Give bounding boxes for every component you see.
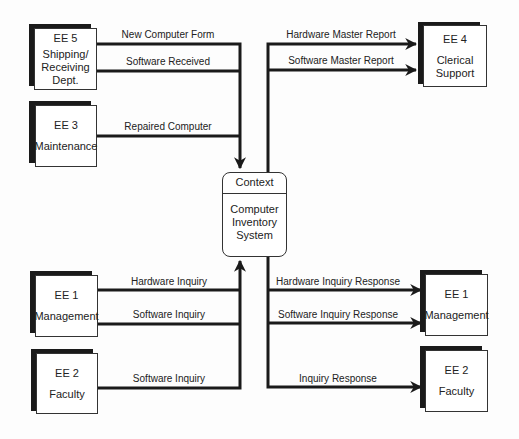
entity-name-line: Dept.: [52, 74, 78, 87]
flow-label-faculty-software-inquiry: Software Inquiry: [133, 373, 205, 384]
entity-id: EE 3: [54, 119, 78, 132]
flow-label-new-computer-form: New Computer Form: [122, 29, 215, 40]
flow-label-software-master-report: Software Master Report: [288, 55, 394, 66]
entity-name-line: Management: [34, 310, 98, 323]
process-name: Computer Inventory System: [223, 194, 286, 242]
entity-id: EE 4: [443, 33, 467, 46]
entity-name-line: Shipping/: [43, 48, 89, 61]
flow-label-hardware-master-report: Hardware Master Report: [286, 29, 395, 40]
entity-name-line: Clerical: [437, 54, 474, 67]
flow-label-software-inquiry: Software Inquiry: [133, 309, 205, 320]
process-header: Context: [223, 173, 286, 194]
external-entity-management-sink[interactable]: EE 1 Management: [420, 270, 488, 336]
external-entity-maintenance[interactable]: EE 3 Maintenance: [29, 101, 97, 167]
flow-label-hardware-inquiry-response: Hardware Inquiry Response: [276, 276, 400, 287]
external-entity-clerical-support[interactable]: EE 4 Clerical Support: [418, 22, 487, 87]
entity-name-line: Management: [424, 309, 488, 322]
entity-name-line: Faculty: [49, 388, 84, 401]
entity-id: EE 2: [55, 367, 79, 380]
flow-label-software-inquiry-response: Software Inquiry Response: [278, 309, 398, 320]
flow-label-software-received: Software Received: [126, 56, 210, 67]
context-diagram: EE 5 Shipping/ Receiving Dept. EE 3 Main…: [0, 0, 519, 439]
entity-name-line: Maintenance: [35, 140, 98, 153]
entity-name-line: Support: [436, 67, 475, 80]
entity-name-line: Receiving: [41, 61, 89, 74]
entity-id: EE 2: [445, 364, 469, 377]
process-computer-inventory-system[interactable]: Context Computer Inventory System: [222, 172, 287, 257]
external-entity-faculty-sink[interactable]: EE 2 Faculty: [420, 346, 488, 412]
flow-label-inquiry-response: Inquiry Response: [299, 373, 377, 384]
entity-id: EE 1: [445, 288, 469, 301]
entity-id: EE 1: [55, 289, 79, 302]
external-entity-management-source[interactable]: EE 1 Management: [30, 271, 98, 337]
flow-label-repaired-computer: Repaired Computer: [124, 121, 211, 132]
flow-label-hardware-inquiry: Hardware Inquiry: [131, 276, 207, 287]
entity-id: EE 5: [54, 32, 78, 45]
entity-name-line: Faculty: [439, 385, 474, 398]
external-entity-faculty-source[interactable]: EE 2 Faculty: [31, 349, 98, 414]
external-entity-shipping-receiving[interactable]: EE 5 Shipping/ Receiving Dept.: [29, 24, 97, 90]
